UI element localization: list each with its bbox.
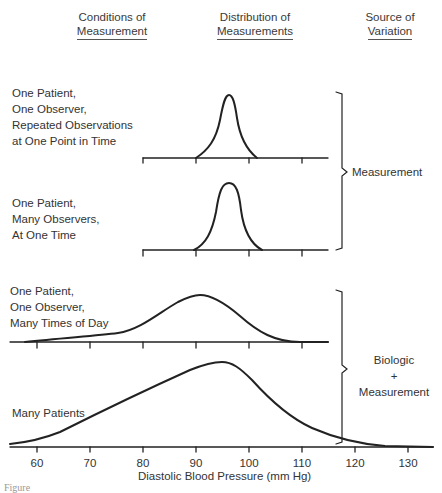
plot4-axis — [10, 447, 433, 452]
x-tick-labels: 60 70 80 90 100 110 120 130 — [31, 457, 418, 469]
x-tick-110: 110 — [293, 457, 311, 469]
plot3-curve — [25, 295, 328, 342]
bracket-measurement — [336, 92, 347, 250]
x-tick-70: 70 — [84, 457, 97, 469]
plot2-curve — [194, 183, 262, 250]
plot3-axis — [10, 342, 328, 348]
figure-caption: Figure — [4, 482, 30, 493]
bracket-biologic-measurement — [336, 290, 347, 444]
plot1-curve — [196, 95, 257, 158]
plot2-axis — [143, 250, 328, 256]
x-tick-80: 80 — [137, 457, 150, 469]
x-tick-60: 60 — [31, 457, 44, 469]
x-tick-90: 90 — [190, 457, 203, 469]
x-tick-120: 120 — [345, 457, 364, 469]
x-tick-130: 130 — [398, 457, 417, 469]
x-tick-100: 100 — [239, 457, 258, 469]
x-axis-label: Diastolic Blood Pressure (mm Hg) — [138, 470, 311, 482]
plot4-curve — [10, 362, 433, 447]
plot1-axis — [143, 158, 328, 163]
